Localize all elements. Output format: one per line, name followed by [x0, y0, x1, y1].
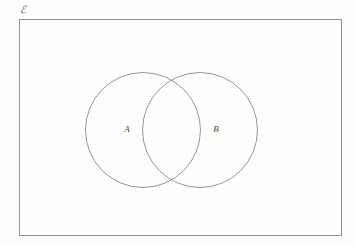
- venn-diagram-figure: ℰ A B: [0, 0, 355, 246]
- set-b-circle: [143, 73, 258, 188]
- set-a-label: A: [123, 124, 130, 134]
- venn-diagram-canvas: ℰ A B: [0, 0, 355, 246]
- set-a-circle: [86, 73, 201, 188]
- universal-set-label: ℰ: [20, 4, 27, 15]
- universal-set-rectangle: [19, 19, 341, 235]
- set-b-label: B: [213, 124, 219, 134]
